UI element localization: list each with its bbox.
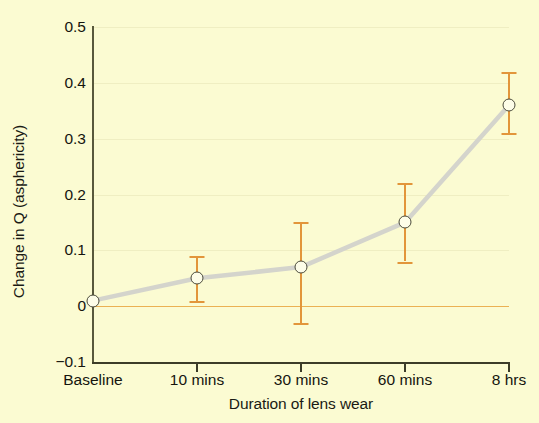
x-tick-label: 60 mins: [378, 371, 432, 389]
x-axis-title: Duration of lens wear: [93, 395, 509, 413]
x-tick-label: 10 mins: [170, 371, 224, 389]
chart-figure: Change in Q (asphericity) −0.100.10.20.3…: [0, 0, 539, 423]
x-axis-ticks: Baseline10 mins30 mins60 mins8 hrs: [0, 0, 539, 423]
x-tick-label: Baseline: [63, 371, 122, 389]
x-tick-label: 30 mins: [274, 371, 328, 389]
x-tick-label: 8 hrs: [492, 371, 526, 389]
